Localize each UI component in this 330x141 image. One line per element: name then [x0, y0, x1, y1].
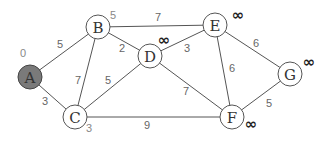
- node-distance-label: 0: [20, 47, 26, 59]
- node-E: E∞: [203, 6, 244, 37]
- edge-A-B: [30, 27, 98, 77]
- node-label: A: [24, 69, 36, 87]
- edge-weight-label: 6: [253, 37, 259, 49]
- edge-weight-label: 9: [144, 119, 150, 131]
- edge-B-C: [75, 27, 98, 117]
- edge-weight-label: 6: [229, 62, 235, 74]
- node-distance-label: ∞: [232, 6, 245, 24]
- edge-E-G: [215, 25, 290, 74]
- node-distance-label: ∞: [303, 53, 316, 71]
- edge-weight-label: 2: [119, 42, 125, 54]
- node-label: G: [284, 66, 296, 84]
- edge-weight-label: 5: [57, 38, 63, 50]
- node-label: F: [227, 109, 237, 127]
- edge-C-D: [75, 56, 150, 117]
- node-distance-label: 3: [86, 122, 92, 134]
- node-label: D: [144, 48, 156, 66]
- edge-D-F: [150, 56, 232, 117]
- node-distance-label: ∞: [245, 115, 258, 133]
- node-label: B: [92, 19, 103, 37]
- node-label: C: [69, 109, 80, 127]
- edge-weight-label: 7: [183, 85, 189, 97]
- node-distance-label: 5: [110, 9, 116, 21]
- graph-diagram: 537275937665 A0B5C3D∞E∞F∞G∞: [0, 0, 330, 141]
- edge-weight-label: 3: [184, 42, 190, 54]
- node-A: A0: [18, 47, 42, 89]
- edge-weight-label: 7: [75, 74, 81, 86]
- node-F: F∞: [220, 105, 257, 133]
- node-D: D∞: [138, 31, 170, 68]
- edge-B-E: [98, 25, 215, 27]
- node-distance-label: ∞: [158, 31, 171, 49]
- edge-weight-label: 5: [266, 97, 272, 109]
- edge-weight-label: 3: [42, 95, 48, 107]
- edge-weight-label: 7: [155, 11, 161, 23]
- node-G: G∞: [278, 53, 315, 86]
- node-label: E: [210, 17, 221, 35]
- edge-weight-label: 5: [105, 74, 111, 86]
- node-C: C3: [63, 105, 92, 134]
